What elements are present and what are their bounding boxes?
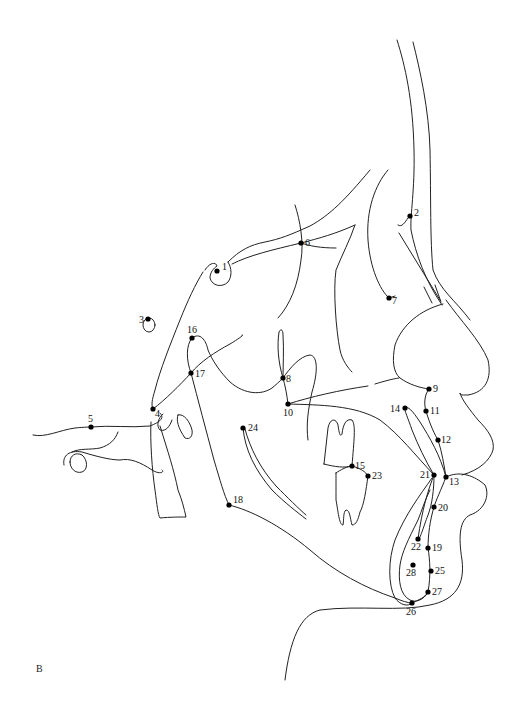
nasal-bone-line [399, 233, 440, 300]
landmark-9: 9 [426, 383, 438, 394]
landmark-label: 18 [233, 494, 243, 505]
landmark-dot [88, 424, 93, 429]
landmark-12: 12 [435, 434, 451, 445]
landmark-label: 9 [433, 383, 438, 394]
pterygoid-loop [187, 336, 283, 393]
dens-outline [151, 422, 186, 518]
lower-lip [285, 474, 487, 680]
landmark-18: 18 [226, 494, 243, 508]
landmark-label: 8 [286, 373, 291, 384]
landmark-dot [425, 545, 430, 550]
landmark-dot [431, 504, 436, 509]
landmark-label: 16 [187, 324, 197, 335]
landmark-4: 4 [150, 406, 160, 419]
landmark-dot [443, 474, 448, 479]
landmark-label: 21 [420, 469, 430, 480]
landmark-label: 11 [430, 405, 440, 416]
upper-incisor [405, 408, 446, 477]
orbit-curve [368, 170, 395, 298]
landmark-label: 20 [438, 502, 448, 513]
landmark-label: 4 [155, 408, 160, 419]
landmark-dot [145, 316, 150, 321]
palatal-plane [288, 378, 399, 404]
landmark-2: 2 [407, 207, 419, 219]
landmark-27: 27 [425, 586, 442, 597]
landmark-dot [386, 295, 391, 300]
frontal-process [335, 225, 355, 372]
vertebra-shape [177, 415, 192, 439]
landmark-dot [407, 213, 412, 218]
landmark-dot [435, 437, 440, 442]
panel-label: B [36, 663, 43, 674]
landmark-label: 6 [305, 237, 310, 248]
soft-tissue-forehead-outer [413, 42, 470, 320]
landmark-dot [214, 268, 219, 273]
palatal-upper-line [232, 225, 355, 264]
landmark-label: 22 [411, 541, 421, 552]
occipital-line [33, 413, 162, 436]
landmark-label: 10 [283, 407, 293, 418]
landmark-dot [298, 240, 303, 245]
landmark-label: 26 [406, 606, 416, 617]
landmark-25: 25 [428, 565, 445, 576]
ramus-posterior [191, 373, 229, 505]
landmark-label: 1 [222, 261, 227, 272]
upper-molar [324, 420, 354, 467]
landmark-dot [426, 386, 431, 391]
atlas-top [72, 432, 118, 452]
landmark-label: 2 [414, 207, 419, 218]
landmark-label: 14 [390, 403, 400, 414]
landmark-dot [226, 502, 231, 507]
lower-molar [336, 466, 368, 525]
landmark-dot [349, 463, 354, 468]
landmark-label: 3 [139, 314, 144, 325]
sella-turcica [205, 262, 231, 285]
ptm-fissure [278, 330, 288, 404]
landmark-label: 12 [441, 434, 451, 445]
landmark-dot [423, 408, 428, 413]
landmark-label: 23 [372, 470, 382, 481]
landmark-label: 27 [432, 586, 442, 597]
landmark-16: 16 [187, 324, 197, 341]
atlas-outline [64, 452, 163, 473]
mandibular-canal-outer [243, 428, 306, 519]
landmark-label: 17 [195, 368, 205, 379]
landmark-dot [425, 589, 430, 594]
landmark-dot [428, 568, 433, 573]
landmark-1: 1 [214, 261, 227, 274]
soft-tissue-forehead-inner [397, 40, 442, 305]
landmark-17: 17 [188, 368, 205, 379]
landmarks-layer: 1234567891011121314151617181920212223242… [88, 207, 459, 617]
landmark-5: 5 [88, 413, 94, 430]
nasal-ala [393, 304, 443, 389]
landmark-13: 13 [443, 474, 459, 487]
landmark-label: 13 [449, 476, 459, 487]
tracing-svg: 1234567891011121314151617181920212223242… [0, 0, 526, 720]
landmark-dot [188, 370, 193, 375]
landmark-dot [240, 425, 245, 430]
landmark-15: 15 [349, 460, 365, 471]
landmark-label: 5 [88, 413, 93, 424]
landmark-dot [285, 401, 290, 406]
landmark-dot [431, 472, 436, 477]
mandibular-canal-inner [245, 429, 306, 515]
landmark-label: 24 [248, 422, 258, 433]
anterior-cranial-base [228, 170, 370, 262]
landmark-dot [280, 375, 285, 380]
landmark-label: 25 [435, 565, 445, 576]
cephalometric-tracing: 1234567891011121314151617181920212223242… [0, 0, 526, 720]
landmark-6: 6 [298, 237, 310, 248]
landmark-label: 7 [392, 295, 397, 306]
landmark-7: 7 [386, 295, 397, 306]
landmark-28: 28 [406, 562, 416, 578]
landmark-label: 19 [432, 542, 442, 553]
landmark-20: 20 [431, 502, 448, 513]
orbital-vertical [278, 205, 302, 318]
landmark-22: 22 [411, 536, 421, 552]
mandibular-lower-border [229, 505, 412, 603]
landmark-dot [409, 600, 414, 605]
landmark-dot [365, 473, 370, 478]
landmark-11: 11 [423, 405, 439, 416]
landmark-dot [402, 405, 407, 410]
landmark-dot [189, 335, 194, 340]
